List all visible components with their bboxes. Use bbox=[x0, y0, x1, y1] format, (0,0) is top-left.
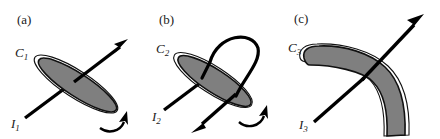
panel-b-tag: (b) bbox=[159, 12, 174, 27]
panel-a-spin-arrow-curve bbox=[100, 122, 124, 131]
panel-b-axis-line-lower bbox=[164, 80, 204, 110]
panel-a-axis-line-upper bbox=[74, 47, 120, 82]
panel-a-lamina-body bbox=[33, 50, 123, 119]
figure-canvas: (a) C1 bbox=[0, 0, 440, 139]
panel-c-lamina-body bbox=[304, 46, 405, 136]
panel-b-axis-arrowhead bbox=[191, 119, 208, 133]
panel-b-axis-label: I2 bbox=[151, 109, 161, 126]
panel-c: (c) C3 I3 bbox=[286, 0, 440, 139]
panel-c-axis-label: I3 bbox=[298, 117, 308, 134]
panel-a: (a) C1 bbox=[0, 0, 148, 139]
panel-c-axis-line-lower bbox=[314, 78, 364, 122]
panel-b: (b) C2 bbox=[148, 0, 286, 139]
panel-c-tag: (c) bbox=[294, 11, 308, 26]
panel-b-spin-arrow-curve bbox=[239, 116, 264, 126]
panel-a-tag: (a) bbox=[17, 12, 31, 27]
panel-a-body-label: C1 bbox=[15, 45, 28, 62]
panel-c-body-label: C3 bbox=[288, 40, 302, 57]
panel-b-body-label: C2 bbox=[156, 41, 170, 58]
panel-a-axis-label: I1 bbox=[10, 116, 20, 133]
